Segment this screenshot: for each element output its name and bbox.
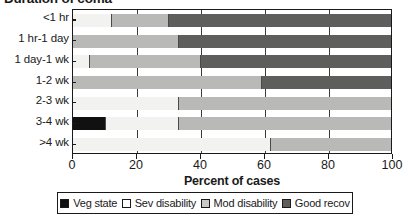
- legend-item[interactable]: Veg state: [60, 197, 117, 209]
- x-axis: [72, 154, 392, 159]
- y-axis-label: >4 wk: [3, 136, 69, 148]
- bar-segment: [73, 35, 178, 48]
- bar-row: [73, 55, 391, 68]
- legend-swatch-icon: [282, 199, 291, 208]
- bar-row: [73, 35, 391, 48]
- bar-segment: [178, 117, 391, 130]
- bar-segment: [73, 14, 111, 27]
- bar-segment: [261, 76, 391, 89]
- y-axis-labels: <1 hr1 hr-1 day1 day-1 wk1-2 wk2-3 wk3-4…: [0, 9, 69, 154]
- y-axis-tick: [72, 102, 76, 103]
- x-axis-tick-label: 40: [193, 158, 207, 172]
- bar-row: [73, 138, 391, 151]
- legend-swatch-icon: [201, 199, 210, 208]
- x-axis-tick-label: 20: [129, 158, 143, 172]
- bar-segment: [89, 55, 200, 68]
- y-axis-label: 1 day-1 wk: [3, 53, 69, 65]
- bar-segment: [73, 97, 178, 110]
- bar-segment: [73, 76, 261, 89]
- y-axis-tick: [72, 123, 76, 124]
- y-axis-label: 1 hr-1 day: [3, 32, 69, 44]
- legend-label: Sev disability: [135, 197, 196, 209]
- y-axis-label: 2-3 wk: [3, 94, 69, 106]
- plot-area: [72, 9, 392, 154]
- legend-label: Good recov: [295, 197, 350, 209]
- legend-swatch-icon: [122, 199, 131, 208]
- legend-item[interactable]: Sev disability: [122, 197, 196, 209]
- y-axis-tick: [72, 19, 76, 20]
- y-axis-label: 1-2 wk: [3, 74, 69, 86]
- bar-row: [73, 76, 391, 89]
- y-axis-tick: [72, 144, 76, 145]
- bar-row: [73, 97, 391, 110]
- bar-segment: [111, 14, 168, 27]
- bar-segment: [168, 14, 391, 27]
- bar-row: [73, 117, 391, 130]
- x-axis-tick-label: 60: [257, 158, 271, 172]
- bar-segment: [200, 55, 391, 68]
- bar-segment: [270, 138, 391, 151]
- bar-segment: [73, 117, 105, 130]
- chart-title: Duration of coma: [4, 0, 112, 6]
- legend-label: Veg state: [73, 197, 117, 209]
- bar-row: [73, 14, 391, 27]
- legend-label: Mod disability: [214, 197, 278, 209]
- y-axis-label: <1 hr: [3, 11, 69, 23]
- x-axis-tick-label: 80: [321, 158, 335, 172]
- x-axis-title: Percent of cases: [72, 174, 392, 188]
- y-axis-label: 3-4 wk: [3, 115, 69, 127]
- bar-segment: [178, 35, 391, 48]
- legend-item[interactable]: Good recov: [282, 197, 350, 209]
- legend-swatch-icon: [60, 199, 69, 208]
- y-axis-tick: [72, 40, 76, 41]
- chart-figure: Duration of coma <1 hr1 hr-1 day1 day-1 …: [0, 0, 408, 219]
- chart-legend: Veg stateSev disabilityMod disabilityGoo…: [57, 192, 353, 214]
- bar-segment: [73, 138, 270, 151]
- x-axis-tick-label: 0: [69, 158, 76, 172]
- legend-item[interactable]: Mod disability: [201, 197, 278, 209]
- x-axis-tick-label: 100: [382, 158, 403, 172]
- bar-segment: [105, 117, 178, 130]
- y-axis-tick: [72, 82, 76, 83]
- bar-segment: [178, 97, 391, 110]
- y-axis-tick: [72, 61, 76, 62]
